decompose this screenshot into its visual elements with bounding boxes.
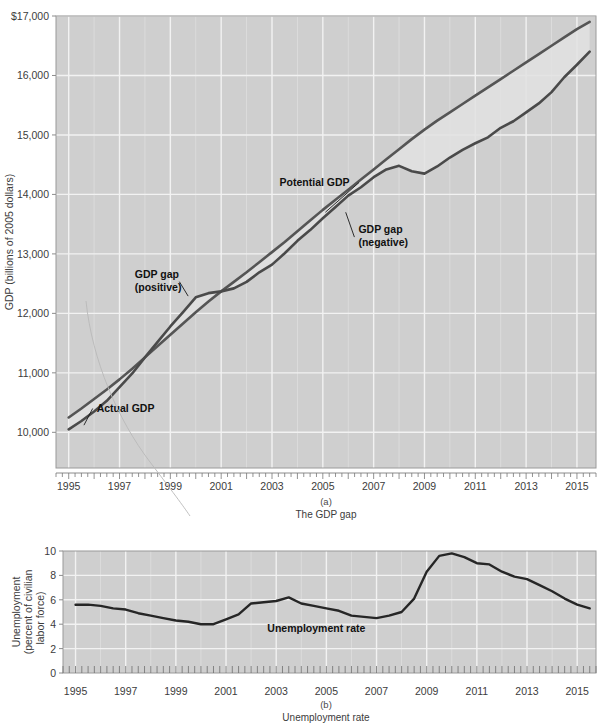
- svg-text:2015: 2015: [565, 480, 589, 492]
- panel-b-x-tick-labels: 1995199719992001200320052007200920112013…: [64, 685, 589, 697]
- svg-text:(negative): (negative): [358, 236, 408, 248]
- svg-text:2005: 2005: [311, 480, 335, 492]
- svg-text:2011: 2011: [464, 480, 487, 492]
- svg-text:2005: 2005: [315, 685, 339, 697]
- svg-text:8: 8: [50, 569, 56, 581]
- svg-text:1995: 1995: [57, 480, 81, 492]
- panel-b: 0246810 19951997199920012003200520072009…: [10, 545, 596, 697]
- panel-a-minor-ticks: [56, 473, 596, 479]
- panel-b-y-tick-labels: 0246810: [44, 545, 63, 679]
- panel-b-annotations: Unemployment rate: [267, 622, 365, 634]
- panel-b-caption: Unemployment rate: [282, 712, 370, 723]
- panel-b-number: (b): [320, 699, 332, 710]
- panel-a-x-tick-labels: 1995199719992001200320052007200920112013…: [57, 480, 589, 492]
- svg-text:2013: 2013: [514, 480, 538, 492]
- svg-text:GDP gap: GDP gap: [135, 268, 179, 280]
- svg-text:15,000: 15,000: [17, 129, 49, 141]
- svg-text:Actual GDP: Actual GDP: [97, 402, 155, 414]
- svg-text:2013: 2013: [515, 685, 539, 697]
- panel-a-number: (a): [320, 496, 332, 507]
- svg-text:Unemployment rate: Unemployment rate: [267, 622, 365, 634]
- panel-a-y-axis-label: GDP (billions of 2005 dollars): [3, 174, 15, 310]
- panel-b-y-axis-label-line1: Unemployment: [10, 577, 22, 648]
- svg-text:1999: 1999: [159, 480, 183, 492]
- svg-text:10: 10: [44, 545, 56, 557]
- economics-figure: $17,00016,00015,00014,00013,00012,00011,…: [0, 0, 609, 726]
- svg-text:GDP gap: GDP gap: [358, 223, 402, 235]
- panel-a-caption: The GDP gap: [296, 509, 357, 520]
- panel-a: $17,00016,00015,00014,00013,00012,00011,…: [3, 10, 596, 492]
- svg-text:1997: 1997: [108, 480, 132, 492]
- svg-text:0: 0: [50, 667, 56, 679]
- svg-text:10,000: 10,000: [17, 426, 49, 438]
- svg-text:2015: 2015: [566, 685, 590, 697]
- svg-text:2003: 2003: [260, 480, 284, 492]
- svg-text:2011: 2011: [466, 685, 489, 697]
- svg-text:1995: 1995: [64, 685, 88, 697]
- figure-container: $17,00016,00015,00014,00013,00012,00011,…: [0, 0, 609, 726]
- panel-b-plot-background: [63, 551, 596, 673]
- svg-text:2001: 2001: [214, 685, 238, 697]
- svg-text:2007: 2007: [365, 685, 389, 697]
- svg-text:2009: 2009: [415, 685, 439, 697]
- svg-text:1999: 1999: [164, 685, 188, 697]
- svg-text:1997: 1997: [114, 685, 138, 697]
- svg-text:2003: 2003: [265, 685, 289, 697]
- svg-text:(positive): (positive): [135, 281, 182, 293]
- svg-text:2007: 2007: [362, 480, 386, 492]
- svg-text:12,000: 12,000: [17, 307, 49, 319]
- svg-text:14,000: 14,000: [17, 188, 49, 200]
- svg-text:4: 4: [50, 618, 56, 630]
- svg-text:$17,000: $17,000: [11, 10, 49, 22]
- svg-text:Potential GDP: Potential GDP: [280, 176, 350, 188]
- svg-text:2: 2: [50, 643, 56, 655]
- panel-b-y-axis-label-line3: labor force): [34, 591, 46, 644]
- svg-text:16,000: 16,000: [17, 69, 49, 81]
- svg-text:2001: 2001: [209, 480, 233, 492]
- svg-text:6: 6: [50, 594, 56, 606]
- svg-text:13,000: 13,000: [17, 248, 49, 260]
- svg-text:11,000: 11,000: [18, 367, 49, 379]
- svg-text:2009: 2009: [413, 480, 437, 492]
- panel-b-y-axis-label-line2: (percent of civilian: [22, 570, 34, 655]
- panel-a-y-tick-labels: $17,00016,00015,00014,00013,00012,00011,…: [11, 10, 56, 438]
